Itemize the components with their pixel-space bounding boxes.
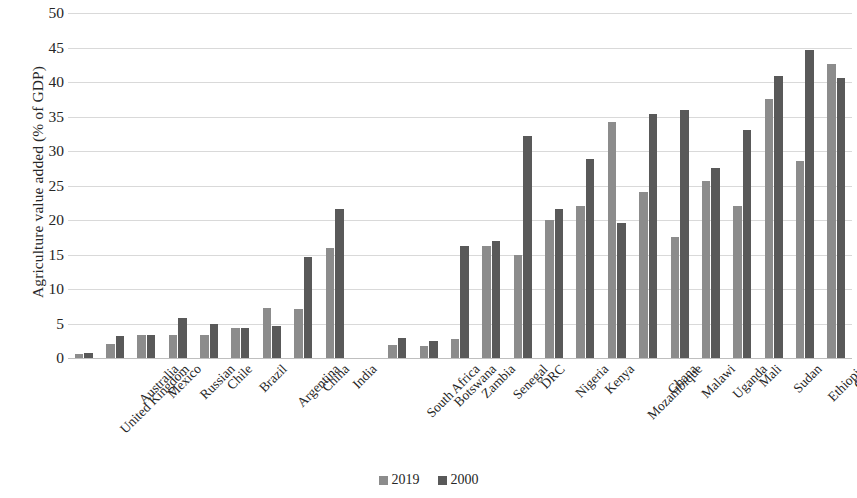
bar-2000[interactable] [617, 223, 626, 358]
legend-item[interactable]: 2000 [438, 472, 479, 488]
bar-group [444, 13, 475, 358]
y-axis-tick-label: 5 [56, 316, 64, 332]
legend-item[interactable]: 2019 [379, 472, 420, 488]
x-axis-label: China [320, 362, 352, 394]
bar-group [538, 13, 569, 358]
bar-2000[interactable] [555, 209, 564, 358]
bar-2000[interactable] [492, 241, 501, 358]
y-axis-tick-label: 25 [49, 178, 65, 194]
y-axis-tick-label: 20 [49, 212, 65, 228]
bar-2000[interactable] [116, 336, 125, 358]
bar-group [350, 13, 381, 358]
bar-2019[interactable] [482, 246, 491, 358]
bar-group [382, 13, 413, 358]
bar-2000[interactable] [241, 328, 250, 358]
bar-group [758, 13, 789, 358]
legend-swatch-icon [438, 476, 447, 485]
chart-legend: 20192000 [0, 472, 857, 488]
bar-group [570, 13, 601, 358]
bar-2000[interactable] [743, 130, 752, 358]
bar-2019[interactable] [671, 237, 680, 358]
bar-group [727, 13, 758, 358]
legend-swatch-icon [379, 476, 388, 485]
y-axis-tick-label: 0 [56, 350, 64, 366]
x-axis-label: India [350, 362, 379, 391]
bar-2000[interactable] [680, 110, 689, 358]
agriculture-value-added-bar-chart: Agriculture value added (% of GDP) 05101… [0, 0, 857, 498]
y-axis-tick-label: 45 [49, 40, 65, 56]
bar-group [632, 13, 663, 358]
x-axis-category-labels: United KingdomAustraliaMexicoRussianChil… [68, 358, 852, 463]
bar-2000[interactable] [178, 318, 187, 358]
y-axis-tick-labels: 05101520253035404550 [30, 13, 64, 358]
bar-2019[interactable] [608, 122, 617, 358]
bar-group [601, 13, 632, 358]
bar-2019[interactable] [796, 161, 805, 358]
bar-2000[interactable] [460, 246, 469, 358]
bar-2019[interactable] [137, 335, 146, 358]
bar-group [664, 13, 695, 358]
bar-2019[interactable] [106, 344, 115, 358]
bar-2000[interactable] [335, 209, 344, 358]
bar-2000[interactable] [805, 50, 814, 358]
bar-2000[interactable] [837, 78, 846, 358]
bar-2000[interactable] [774, 76, 783, 358]
bar-group [68, 13, 99, 358]
bar-group [413, 13, 444, 358]
x-axis-label: Malawi [699, 362, 738, 401]
bar-2000[interactable] [711, 168, 720, 358]
bar-2019[interactable] [200, 335, 209, 358]
bar-group [507, 13, 538, 358]
bar-2019[interactable] [733, 206, 742, 358]
bar-2000[interactable] [210, 324, 219, 359]
bar-2000[interactable] [272, 326, 281, 358]
bar-group [695, 13, 726, 358]
bar-2019[interactable] [326, 248, 335, 358]
bar-2000[interactable] [398, 338, 407, 358]
y-axis-tick-label: 10 [49, 281, 65, 297]
bar-2000[interactable] [429, 341, 438, 358]
bar-2000[interactable] [147, 335, 156, 358]
bar-group [789, 13, 820, 358]
x-axis-label: Kenya [603, 362, 637, 396]
bar-2019[interactable] [169, 335, 178, 358]
y-axis-tick-label: 15 [49, 247, 65, 263]
bar-2019[interactable] [294, 309, 303, 358]
bar-2019[interactable] [420, 346, 429, 358]
legend-label: 2000 [451, 472, 479, 488]
y-axis-tick-label: 50 [49, 5, 65, 21]
bar-2000[interactable] [586, 159, 595, 358]
bar-2019[interactable] [451, 339, 460, 358]
x-axis-label: Brazil [257, 362, 290, 395]
bar-2019[interactable] [765, 99, 774, 358]
bar-group [821, 13, 852, 358]
bar-group [319, 13, 350, 358]
y-axis-tick-label: 40 [49, 74, 65, 90]
y-axis-tick-label: 30 [49, 143, 65, 159]
bar-2000[interactable] [649, 114, 658, 358]
plot-area [68, 13, 852, 358]
bar-group [225, 13, 256, 358]
bar-2000[interactable] [523, 136, 532, 358]
bar-2000[interactable] [304, 257, 313, 358]
bar-2019[interactable] [388, 345, 397, 358]
bar-group [162, 13, 193, 358]
bar-2019[interactable] [545, 220, 554, 358]
bar-2019[interactable] [263, 308, 272, 358]
bar-group [99, 13, 130, 358]
y-axis-tick-label: 35 [49, 109, 65, 125]
legend-label: 2019 [392, 472, 420, 488]
bar-group [131, 13, 162, 358]
bars-layer [68, 13, 852, 358]
bar-group [256, 13, 287, 358]
bar-2019[interactable] [231, 328, 240, 358]
bar-group [193, 13, 224, 358]
bar-2019[interactable] [639, 192, 648, 358]
bar-2019[interactable] [827, 64, 836, 358]
bar-group [288, 13, 319, 358]
bar-2019[interactable] [576, 206, 585, 358]
bar-2019[interactable] [702, 181, 711, 358]
bar-group [476, 13, 507, 358]
bar-2019[interactable] [514, 255, 523, 358]
x-axis-label: Sudan [790, 362, 823, 395]
